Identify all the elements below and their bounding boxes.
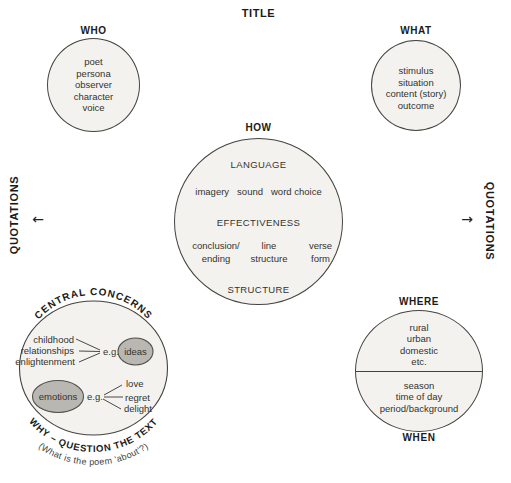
who-item: observer [48,79,139,91]
when-item: season [356,380,482,391]
who-label: WHO [47,25,140,36]
when-label: WHEN [355,432,483,443]
arrow-left-icon: ← [32,212,44,226]
effectiveness-heading: EFFECTIVENESS [175,217,342,228]
technique-line: form [295,252,346,265]
central-concerns-circle [20,301,168,435]
arrow-right-icon: → [461,212,473,226]
how-label: HOW [174,122,343,133]
connector-line [79,351,100,352]
technique-line: ending [186,252,246,265]
eg-label-top: e.g. [103,346,119,357]
language-item: sound [237,186,263,197]
where-when-divider [356,371,482,372]
technique-line: line [239,239,299,252]
poetry-analysis-diagram: TITLE WHO poet persona observer characte… [0,0,511,483]
language-item: imagery [195,186,229,197]
emotion-example-item: delight [124,403,152,414]
quotations-left-label: QUOTATIONS [8,176,20,255]
who-item: persona [48,68,139,80]
what-label: WHAT [371,25,461,36]
when-item: period/background [356,403,482,414]
idea-source-item: relationships [21,345,75,356]
technique-column: conclusion/ ending [186,239,246,265]
emotions-label: emotions [39,391,78,402]
where-label: WHERE [355,296,483,307]
where-item: domestic [356,345,482,356]
technique-column: verse form [295,239,346,265]
where-when-circle: rural urban domestic etc. season time of… [355,310,483,432]
emotion-example-item: love [126,378,143,389]
eg-label-bottom: e.g. [87,391,103,402]
quotations-right-label: QUOTATIONS [484,182,496,261]
technique-line: verse [295,239,346,252]
who-item: character [48,91,139,103]
who-circle: poet persona observer character voice [47,38,140,132]
language-heading: LANGUAGE [175,159,342,170]
where-item: etc. [356,356,482,367]
technique-line: structure [239,252,299,265]
what-item: stimulus [372,65,460,77]
language-item: word choice [271,186,322,197]
what-circle: stimulus situation content (story) outco… [371,40,461,131]
who-item: voice [48,102,139,114]
when-item: time of day [356,391,482,402]
what-item: outcome [372,100,460,112]
where-item: urban [356,333,482,344]
central-concerns-group: CENTRAL CONCERNS childhood relationships… [0,272,200,483]
page-title: TITLE [174,7,343,19]
who-item: poet [48,56,139,68]
ideas-label: ideas [124,346,147,357]
idea-source-item: enlightenment [15,356,75,367]
technique-column: line structure [239,239,299,265]
structure-heading: STRUCTURE [175,284,342,295]
what-item: situation [372,77,460,89]
what-item: content (story) [372,88,460,100]
technique-line: conclusion/ [186,239,246,252]
idea-source-item: childhood [33,334,74,345]
emotion-example-item: regret [125,392,150,403]
where-item: rural [356,322,482,333]
